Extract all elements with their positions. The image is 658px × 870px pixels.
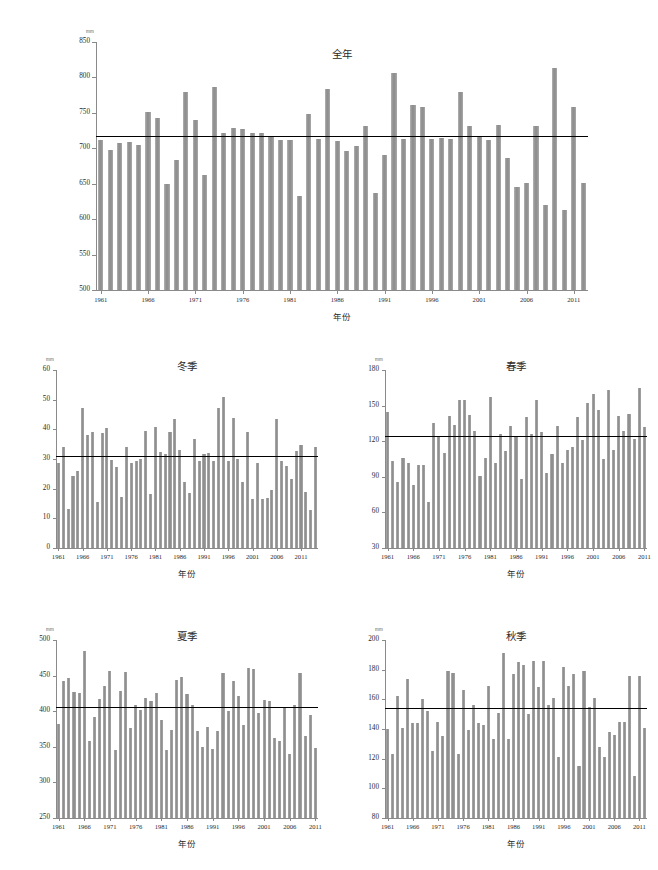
y-axis-tick-label: 60 bbox=[16, 365, 50, 373]
x-axis-tick-label: 1961 bbox=[81, 296, 121, 303]
bar bbox=[297, 196, 302, 290]
bar bbox=[227, 711, 230, 818]
bar bbox=[183, 482, 186, 548]
bar bbox=[198, 461, 201, 548]
bar bbox=[309, 715, 312, 818]
y-axis-tick bbox=[92, 290, 96, 291]
bar bbox=[410, 105, 415, 290]
bar bbox=[532, 661, 535, 818]
bar bbox=[76, 471, 79, 548]
bar bbox=[117, 143, 122, 290]
bar bbox=[257, 713, 260, 818]
bar bbox=[448, 139, 453, 290]
y-axis-tick-label: 0 bbox=[16, 543, 50, 551]
y-axis-tick-label: 250 bbox=[16, 813, 50, 821]
bar bbox=[201, 747, 204, 818]
bar bbox=[139, 459, 142, 548]
bar bbox=[550, 454, 553, 548]
bar bbox=[627, 414, 630, 548]
bar bbox=[484, 458, 487, 548]
bar bbox=[588, 707, 591, 818]
y-axis-tick-label: 80 bbox=[345, 813, 379, 821]
bar bbox=[134, 705, 137, 818]
bar bbox=[492, 739, 495, 818]
bar bbox=[603, 757, 606, 818]
x-axis-tick bbox=[589, 818, 590, 821]
bar bbox=[561, 463, 564, 548]
bar bbox=[325, 89, 330, 290]
bar bbox=[416, 723, 419, 818]
bar bbox=[105, 428, 108, 548]
chart-panel-winter: mm冬季010203040506019611966197119761981198… bbox=[0, 330, 329, 600]
bar bbox=[135, 461, 138, 548]
x-axis-tick bbox=[58, 548, 59, 551]
bar bbox=[504, 451, 507, 548]
bar bbox=[426, 711, 429, 818]
bar bbox=[562, 210, 567, 290]
x-axis-tick bbox=[539, 818, 540, 821]
bar bbox=[581, 183, 586, 290]
bar bbox=[72, 692, 75, 818]
x-axis-tick bbox=[385, 290, 386, 294]
chart-panel-summer: mm夏季250300350400450500196119661971197619… bbox=[0, 600, 329, 870]
bar bbox=[496, 125, 501, 290]
bar bbox=[241, 482, 244, 548]
bar bbox=[180, 677, 183, 818]
y-axis-tick-label: 400 bbox=[16, 706, 50, 714]
x-axis-title: 年份 bbox=[56, 837, 318, 849]
bar bbox=[552, 68, 557, 290]
bar bbox=[144, 431, 147, 548]
mean-line bbox=[385, 708, 647, 709]
x-axis-tick bbox=[204, 548, 205, 551]
bar bbox=[562, 667, 565, 818]
bar bbox=[212, 87, 217, 290]
x-axis-tick bbox=[315, 818, 316, 821]
bar bbox=[396, 482, 399, 548]
bar bbox=[212, 461, 215, 548]
bar bbox=[290, 479, 293, 548]
bar bbox=[431, 751, 434, 818]
bar bbox=[108, 671, 111, 818]
bar bbox=[566, 450, 569, 548]
bar bbox=[207, 453, 210, 548]
x-axis-tick bbox=[465, 548, 466, 551]
bar bbox=[256, 463, 259, 548]
bar bbox=[193, 120, 198, 290]
y-axis-tick-label: 120 bbox=[345, 436, 379, 444]
bar bbox=[108, 150, 113, 290]
bar bbox=[472, 705, 475, 818]
bar bbox=[306, 114, 311, 290]
x-axis-tick bbox=[131, 548, 132, 551]
x-axis-tick bbox=[614, 818, 615, 821]
bar bbox=[597, 410, 600, 548]
bar bbox=[502, 653, 505, 818]
bar bbox=[527, 714, 530, 818]
bar bbox=[586, 403, 589, 548]
bar bbox=[83, 651, 86, 818]
bar-series bbox=[56, 370, 318, 548]
y-axis-tick-label: 150 bbox=[345, 401, 379, 409]
bar bbox=[396, 696, 399, 818]
bar bbox=[335, 141, 340, 291]
bar bbox=[232, 681, 235, 818]
bar bbox=[509, 426, 512, 548]
bar bbox=[129, 728, 132, 818]
bar bbox=[309, 510, 312, 548]
bar bbox=[298, 673, 301, 818]
bar bbox=[293, 705, 296, 818]
bar bbox=[557, 757, 560, 818]
bar bbox=[155, 118, 160, 290]
y-axis-tick-label: 800 bbox=[56, 72, 90, 80]
x-axis-tick bbox=[253, 548, 254, 551]
bar bbox=[164, 454, 167, 548]
x-axis-tick bbox=[479, 290, 480, 294]
bar bbox=[160, 720, 163, 818]
x-axis-tick bbox=[644, 548, 645, 551]
x-axis-tick bbox=[432, 290, 433, 294]
bar bbox=[120, 497, 123, 548]
bar bbox=[91, 432, 94, 548]
bar bbox=[275, 419, 278, 548]
bar bbox=[514, 187, 519, 290]
x-axis-tick bbox=[542, 548, 543, 551]
bar bbox=[304, 492, 307, 548]
